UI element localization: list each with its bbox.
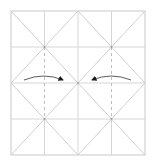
crease-pattern-canvas [0,0,154,160]
origami-diagram [0,0,154,160]
